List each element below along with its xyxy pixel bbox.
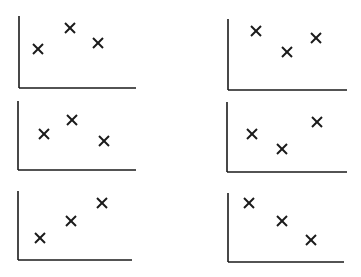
x-marker-icon [277, 144, 287, 154]
x-marker-icon [35, 233, 45, 243]
x-marker-icon [311, 33, 321, 43]
scatter-panel-middle-left [17, 101, 136, 170]
x-marker-icon [67, 115, 77, 125]
x-marker-icon [282, 47, 292, 57]
scatter-panel-bottom-left [17, 191, 132, 260]
x-marker-icon [306, 235, 316, 245]
x-marker-icon [247, 129, 257, 139]
x-marker-icon [99, 136, 109, 146]
scatter-panel-middle-right [226, 102, 347, 172]
scatter-panel-bottom-right [227, 193, 344, 262]
x-marker-icon [97, 198, 107, 208]
x-marker-icon [65, 23, 75, 33]
x-marker-icon [39, 129, 49, 139]
scatter-panel-top-right [227, 19, 347, 90]
scatter-panel-top-left [18, 16, 136, 88]
x-marker-icon [312, 117, 322, 127]
x-marker-icon [33, 44, 43, 54]
x-marker-icon [244, 198, 254, 208]
x-marker-icon [66, 216, 76, 226]
x-marker-icon [277, 216, 287, 226]
x-marker-icon [251, 26, 261, 36]
x-marker-icon [93, 38, 103, 48]
